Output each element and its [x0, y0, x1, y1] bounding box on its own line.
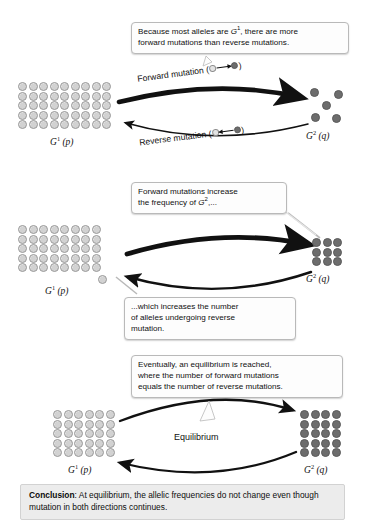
allele-dot — [106, 420, 115, 429]
allele-dot — [60, 92, 69, 101]
allele-cluster-g2-panel-1 — [310, 88, 354, 132]
allele-dot — [71, 92, 80, 101]
allele-dot — [50, 225, 59, 234]
forward-mutation-arrow-panel-2 — [127, 237, 306, 254]
allele-dot — [71, 120, 80, 129]
callout-leader-panel-3 — [200, 401, 215, 421]
allele-dot — [71, 225, 80, 234]
allele-dot — [81, 244, 90, 253]
genotype-g1-letter-p2: G — [45, 286, 52, 296]
allele-dot — [71, 235, 80, 244]
allele-dot — [18, 111, 27, 120]
genotype-g2-letter-p3: G — [304, 465, 311, 475]
allele-dot — [29, 92, 38, 101]
allele-dot — [332, 429, 341, 438]
mutation-equilibrium-figure: Because most alleles are G1, there are m… — [0, 0, 365, 528]
allele-dot — [333, 257, 342, 266]
allele-dot — [71, 111, 80, 120]
allele-dot — [92, 101, 101, 110]
allele-dot — [29, 235, 38, 244]
allele-dot — [334, 90, 343, 99]
allele-dot — [81, 101, 90, 110]
genotype-g2-letter-p2: G — [306, 274, 313, 284]
callout-panel-3: Eventually, an equilibrium is reached, w… — [131, 355, 343, 398]
genotype-g2-sup-p1: 2 — [313, 129, 316, 136]
callout-bottom-panel-2: ...which increases the number of alleles… — [124, 297, 296, 340]
forward-mutation-text-close-p1: ) — [238, 60, 242, 70]
allele-dot — [312, 248, 321, 257]
callout-leader-top-panel-2-highlight — [283, 210, 316, 235]
allele-dot — [29, 263, 38, 272]
genotype-g2-freq-p1: (q) — [318, 131, 329, 141]
allele-dot — [29, 82, 38, 91]
allele-dot — [74, 429, 83, 438]
reverse-mutation-label-panel-1: Reverse mutation ( ) — [139, 125, 245, 149]
allele-dot — [102, 120, 111, 129]
genotype-g1-letter-p1: G — [50, 137, 57, 147]
equilibrium-label: Equilibrium — [174, 432, 219, 442]
allele-dot — [18, 92, 27, 101]
allele-dot — [50, 92, 59, 101]
allele-dot — [92, 244, 101, 253]
allele-dot — [332, 420, 341, 429]
allele-dot — [18, 120, 27, 129]
allele-dot — [64, 410, 73, 419]
genotype-g1-sup-p2: 1 — [52, 284, 55, 291]
allele-dot — [92, 263, 101, 272]
allele-dot — [74, 439, 83, 448]
allele-dot — [71, 101, 80, 110]
reverse-mutation-inline-icon — [211, 125, 242, 140]
allele-dot — [92, 92, 101, 101]
allele-dot — [50, 244, 59, 253]
allele-dot — [39, 92, 48, 101]
allele-dot — [29, 111, 38, 120]
allele-dot — [321, 410, 330, 419]
allele-dot — [102, 82, 111, 91]
allele-dot — [81, 111, 90, 120]
allele-dot — [81, 254, 90, 263]
callout-leader-bottom-panel-2 — [116, 277, 137, 294]
allele-dot — [95, 448, 104, 457]
forward-mutation-text-p1: Forward mutation ( — [137, 64, 210, 83]
allele-dot — [53, 448, 62, 457]
allele-dot — [312, 238, 321, 247]
callout-p2-bot-line1: ...which increases the number — [131, 302, 239, 311]
allele-dot — [60, 111, 69, 120]
genotype-label-g1-panel-1: G1 (p) — [50, 137, 74, 147]
allele-dot — [85, 448, 94, 457]
genotype-g1-freq-p3: (p) — [80, 465, 91, 475]
allele-dot — [95, 429, 104, 438]
allele-dot — [64, 420, 73, 429]
allele-dot — [50, 254, 59, 263]
allele-dot — [29, 101, 38, 110]
forward-mutation-arrow-panel-3 — [120, 400, 292, 421]
allele-dot — [311, 410, 320, 419]
allele-dot — [311, 113, 320, 122]
allele-dot — [60, 263, 69, 272]
allele-dot — [321, 420, 330, 429]
allele-dot — [71, 244, 80, 253]
allele-dot — [64, 448, 73, 457]
allele-dot — [106, 439, 115, 448]
reverse-mutation-text-close-p1: ) — [241, 125, 245, 135]
allele-dot — [323, 257, 332, 266]
allele-dot — [311, 439, 320, 448]
allele-dot — [81, 120, 90, 129]
allele-dot — [39, 82, 48, 91]
allele-dot — [50, 111, 59, 120]
genotype-g2-sup-p3: 2 — [311, 463, 314, 470]
allele-dot — [332, 410, 341, 419]
allele-grid-g1-panel-3 — [53, 410, 116, 457]
allele-dot — [311, 420, 320, 429]
forward-mutation-arrow-panel-1 — [119, 89, 299, 102]
allele-dot — [332, 114, 341, 123]
allele-dot — [64, 439, 73, 448]
genotype-g2-letter-p1: G — [306, 131, 313, 141]
allele-dot — [18, 254, 27, 263]
conclusion-label: Conclusion — [29, 490, 75, 500]
allele-dot — [53, 410, 62, 419]
allele-dot — [300, 448, 309, 457]
allele-dot — [50, 101, 59, 110]
allele-dot — [333, 238, 342, 247]
allele-dot — [74, 420, 83, 429]
